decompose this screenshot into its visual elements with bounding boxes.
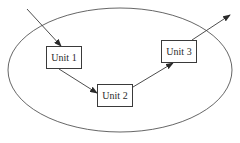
unit-2-box: Unit 2: [97, 84, 133, 107]
input-arrow: [27, 9, 61, 46]
output-arrow: [192, 15, 230, 40]
unit-1-box: Unit 1: [46, 46, 82, 69]
unit-2-label: Unit 2: [102, 90, 127, 101]
unit1-to-unit2-arrow: [59, 69, 97, 93]
unit2-to-unit3-arrow: [133, 63, 173, 87]
system-boundary-ellipse: [8, 8, 232, 132]
diagram-canvas: [0, 0, 240, 143]
process-diagram: Unit 1 Unit 2 Unit 3: [0, 0, 240, 143]
unit-1-label: Unit 1: [51, 52, 76, 63]
unit-3-label: Unit 3: [166, 46, 191, 57]
unit-3-box: Unit 3: [161, 40, 197, 63]
